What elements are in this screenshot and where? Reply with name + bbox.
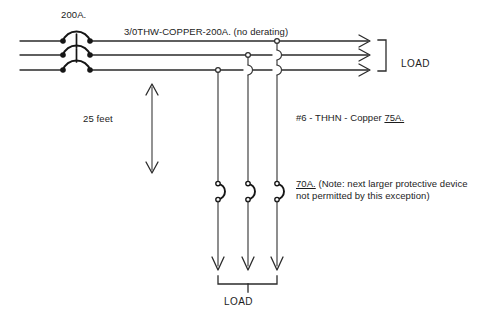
load-bracket-right-shape (378, 40, 386, 71)
tap-conductor-2 (242, 53, 255, 270)
load-label-bottom: LOAD (224, 296, 253, 309)
load-bracket-bottom (218, 276, 277, 292)
tap-conductor-label: #6 - THHN - Copper 75A. (296, 112, 404, 124)
breaker-terminal-a-out (88, 39, 92, 43)
breaker-terminal-c-out (88, 68, 92, 72)
tap-line-3-hop-over-c (277, 65, 282, 75)
note-line-2-text: not permitted by this exception) (296, 190, 468, 202)
electrical-one-line-diagram: 200A. 3/0THW-COPPER-200A. (no derating) … (0, 0, 491, 326)
tap-line-2-hop-over-c (248, 65, 253, 75)
diagram-canvas (0, 0, 491, 326)
breaker-terminal-a-in (61, 39, 65, 43)
branch-breaker-2-arc (248, 184, 255, 199)
tap-conductor-type-text: #6 - THHN - Copper (296, 112, 384, 123)
branch-breaker-1-arc (218, 184, 225, 199)
tap-conductor-3 (271, 39, 284, 270)
tap-conductor-ampacity-text: 75A. (384, 112, 404, 123)
branch-device-rating-text: 70A. (296, 178, 316, 189)
branch-breaker-2-terminal-top (246, 181, 250, 185)
branch-breaker-3-terminal-top (275, 181, 279, 185)
note-line-1: 70A. (Note: next larger protective devic… (296, 178, 468, 190)
feeder-conductor-label: 3/0THW-COPPER-200A. (no derating) (124, 26, 288, 38)
load-label-right: LOAD (401, 58, 430, 71)
load-bracket-right (378, 40, 386, 71)
tap-line-3-hop-over-b (277, 50, 282, 60)
tap-conductor-1 (212, 68, 225, 270)
branch-device-note-label: 70A. (Note: next larger protective devic… (296, 178, 468, 202)
branch-breaker-3-arc (277, 184, 284, 199)
note-line-1-text: (Note: next larger protective device (316, 178, 468, 189)
breaker-terminal-c-in (61, 68, 65, 72)
main-breaker-200a[interactable] (61, 31, 92, 72)
tap-distance-label: 25 feet (83, 113, 113, 125)
tap-distance-dimension (146, 84, 158, 173)
load-bracket-bottom-shape (218, 276, 277, 284)
breaker-terminal-b-in (61, 53, 65, 57)
breaker-terminal-b-out (88, 53, 92, 57)
branch-breaker-1-terminal-top (216, 181, 220, 185)
main-breaker-rating-label: 200A. (61, 9, 86, 21)
